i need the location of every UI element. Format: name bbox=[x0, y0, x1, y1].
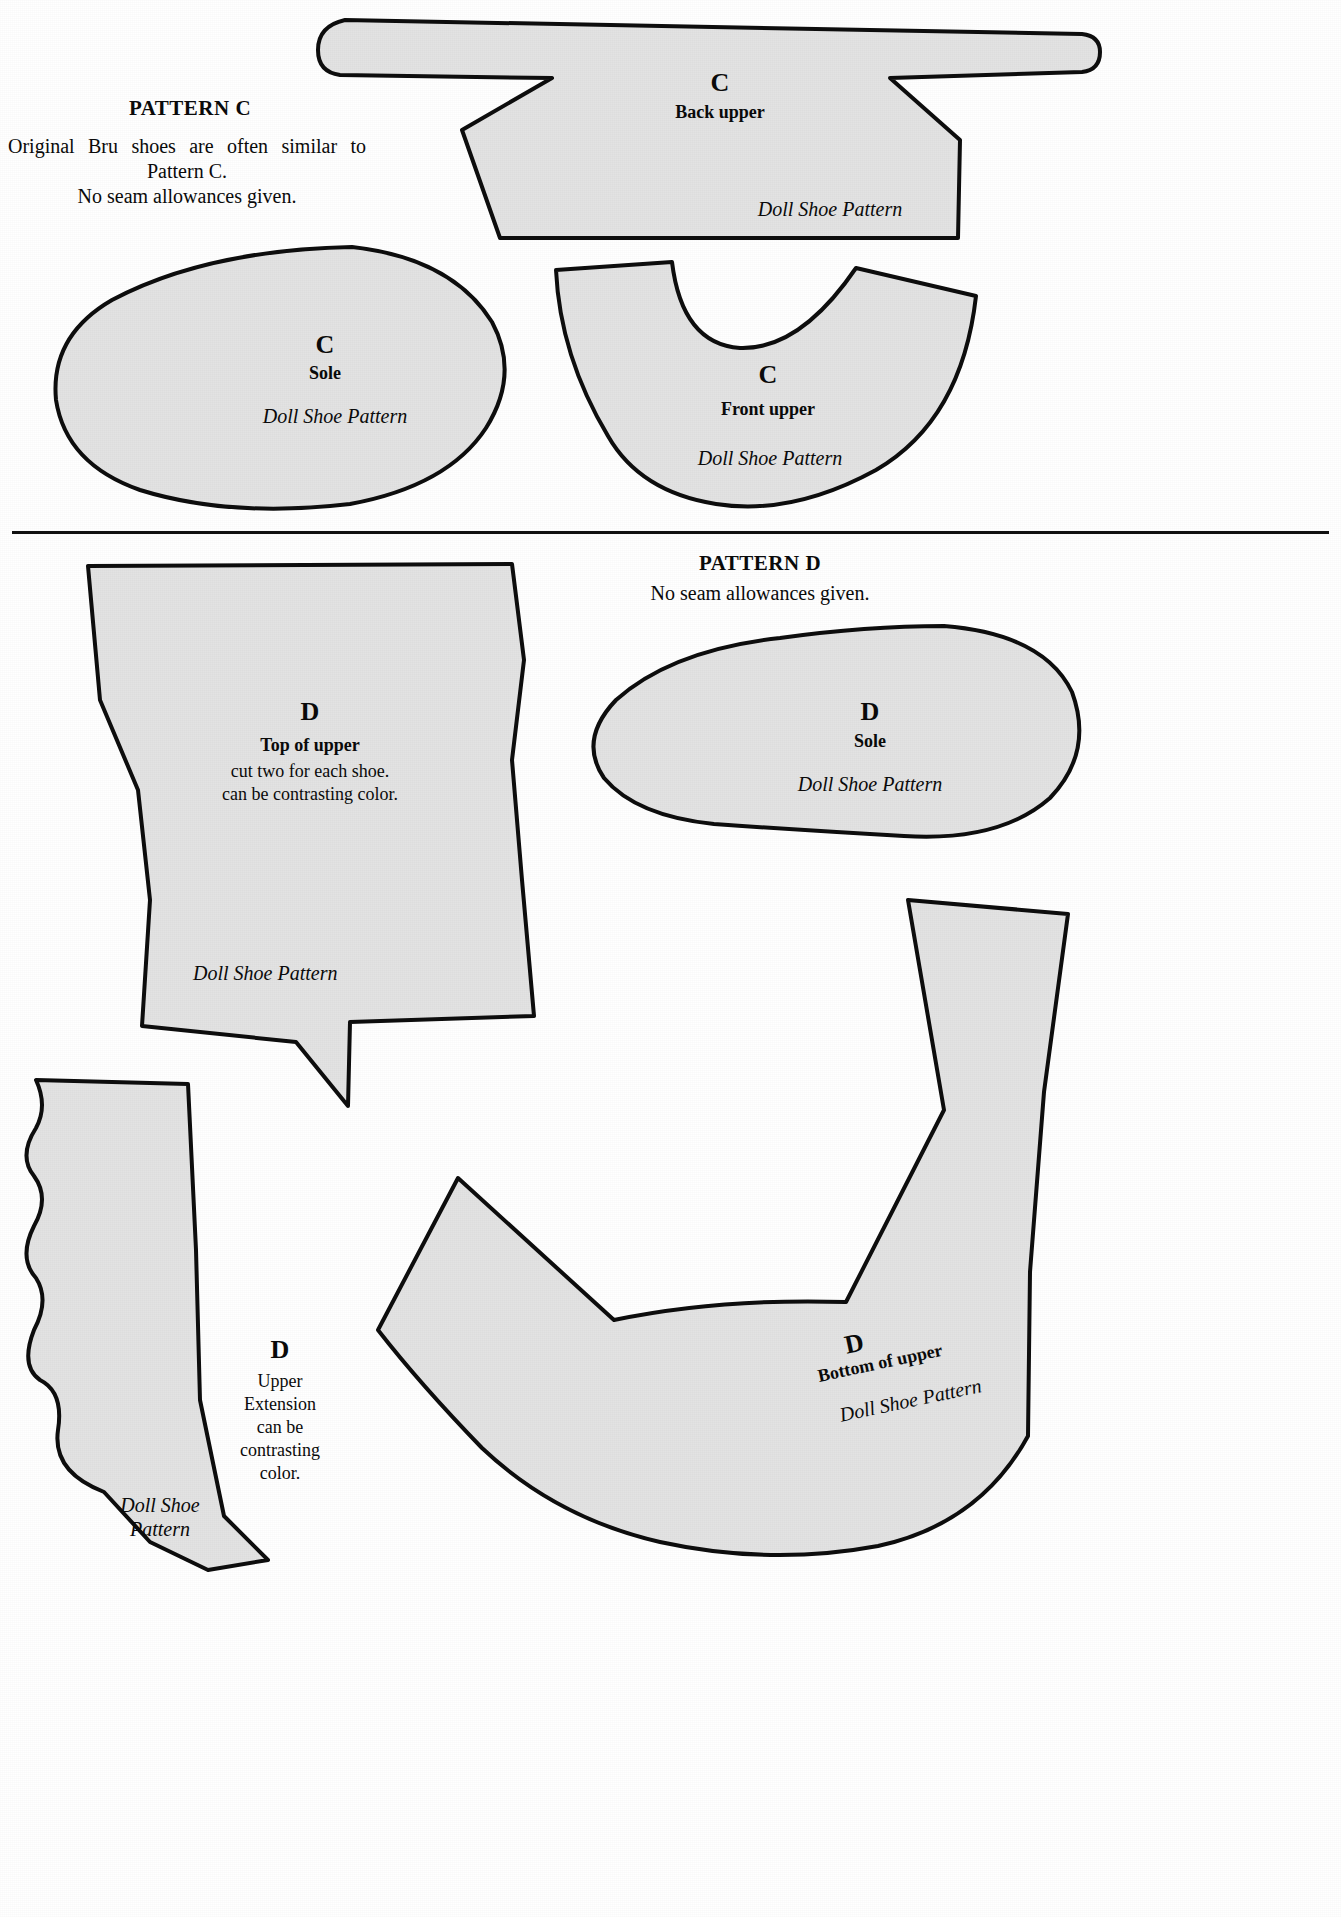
pattern-c-note-line-3: No seam allowances given. bbox=[8, 184, 366, 209]
piece-d-top-of-upper-note-1: cut two for each shoe. bbox=[190, 760, 430, 783]
piece-d-sole-name: Sole bbox=[770, 731, 970, 752]
piece-d-sole-letter: D bbox=[770, 697, 970, 727]
piece-c-sole-letter: C bbox=[225, 330, 425, 360]
piece-d-top-of-upper-letter: D bbox=[210, 697, 410, 727]
pattern-d-note-line-1: No seam allowances given. bbox=[590, 581, 930, 606]
piece-c-front-upper-name: Front upper bbox=[668, 399, 868, 420]
piece-d-top-of-upper-name: Top of upper bbox=[210, 735, 410, 756]
pattern-c-heading: PATTERN C bbox=[10, 96, 370, 121]
piece-d-sole-brand: Doll Shoe Pattern bbox=[740, 773, 1000, 796]
piece-d-upper-extension-note-2: Extension bbox=[205, 1393, 355, 1416]
piece-d-upper-extension-brand-line-2: Pattern bbox=[60, 1518, 260, 1541]
piece-d-upper-extension-brand-line-1: Doll Shoe bbox=[60, 1494, 260, 1517]
piece-d-upper-extension-note-5: color. bbox=[205, 1462, 355, 1485]
piece-c-back-upper-letter: C bbox=[620, 68, 820, 98]
piece-c-front-upper-letter: C bbox=[668, 360, 868, 390]
pattern-c-note-line-1: Original Bru shoes are often similar to bbox=[8, 134, 366, 159]
piece-c-sole-name: Sole bbox=[225, 363, 425, 384]
section-divider bbox=[12, 531, 1329, 534]
piece-d-top-of-upper-brand: Doll Shoe Pattern bbox=[193, 962, 337, 985]
piece-c-back-upper-brand: Doll Shoe Pattern bbox=[700, 198, 960, 221]
piece-c-back-upper-name: Back upper bbox=[620, 102, 820, 123]
piece-c-front-upper-brand: Doll Shoe Pattern bbox=[640, 447, 900, 470]
pattern-shapes-layer bbox=[0, 0, 1341, 1917]
piece-d-upper-extension-note-1: Upper bbox=[205, 1370, 355, 1393]
pattern-sheet-page: PATTERN C Original Bru shoes are often s… bbox=[0, 0, 1341, 1917]
piece-d-upper-extension-letter: D bbox=[205, 1335, 355, 1365]
piece-c-sole-brand: Doll Shoe Pattern bbox=[205, 405, 465, 428]
piece-d-upper-extension-note-4: contrasting bbox=[205, 1439, 355, 1462]
piece-d-upper-extension-note-3: can be bbox=[205, 1416, 355, 1439]
piece-d-top-of-upper-note-2: can be contrasting color. bbox=[190, 783, 430, 806]
pattern-d-heading: PATTERN D bbox=[590, 551, 930, 576]
pattern-c-note-line-2: Pattern C. bbox=[8, 159, 366, 184]
shape-d-top-of-upper bbox=[88, 564, 534, 1106]
